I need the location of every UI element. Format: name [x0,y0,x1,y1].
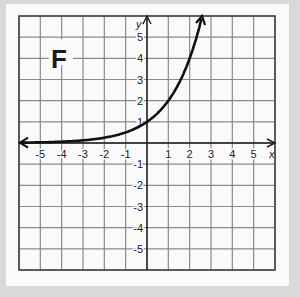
x-tick-label: 4 [229,148,235,160]
exponential-graph: -5-4-3-2-11234554321-1-2-3-4-5xyF [0,0,300,297]
y-tick-label: -1 [133,158,143,170]
y-tick-label: 5 [137,31,143,43]
y-tick-label: -5 [133,243,143,255]
x-tick-label: -3 [78,148,88,160]
y-tick-label: -3 [133,201,143,213]
x-tick-label: 3 [208,148,214,160]
x-tick-label: 1 [165,148,171,160]
y-tick-label: 2 [137,95,143,107]
x-tick-label: -4 [57,148,67,160]
x-tick-label: 2 [187,148,193,160]
x-tick-label: 5 [251,148,257,160]
x-tick-label: -2 [99,148,109,160]
y-tick-label: 3 [137,74,143,86]
y-tick-label: -2 [133,179,143,191]
panel-letter: F [51,44,67,74]
x-tick-label: -5 [35,148,45,160]
y-axis-label: y [135,18,143,30]
y-tick-label: 4 [137,52,143,64]
x-axis-label: x [268,148,275,160]
y-tick-label: -4 [133,222,143,234]
x-tick-label: -1 [121,148,131,160]
